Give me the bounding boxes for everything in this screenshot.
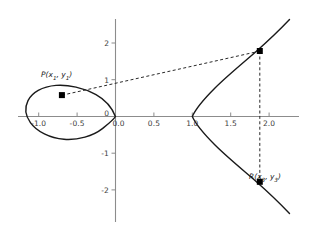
point-label-p-main: P(x [41,70,53,79]
y-tick-label-0: 0 [96,108,109,117]
x-tick-label-0-5: 0.5 [148,119,160,128]
y-tick-label-2: 2 [96,39,109,48]
y-tick-label-neg2: -2 [96,185,109,194]
x-tick-label-neg1: -1.0 [31,119,46,128]
elliptic-curve-figure: -1.0 -0.5 0.0 0.5 1.0 1.5 2.0 2 1 0 -1 -… [0,0,315,235]
x-tick-label-0: 0.0 [112,119,124,128]
point-label-r-end: ) [278,172,281,181]
plot-canvas [0,0,315,235]
point-label-r-main: R(x [249,172,262,181]
x-tick-label-neg0-5: -0.5 [70,119,85,128]
point-label-p-end: ) [69,70,72,79]
x-tick-label-1: 1.0 [186,119,198,128]
y-tick-label-neg1: -1 [96,149,109,158]
point-marker-q [257,48,263,54]
point-label-p: P(x1, y1) [41,70,72,81]
x-tick-label-1-5: 1.5 [225,119,237,128]
point-label-p-mid: , y [56,70,65,79]
x-tick-marks [39,113,269,117]
x-tick-label-2: 2.0 [263,119,275,128]
y-tick-label-1: 1 [96,75,109,84]
point-label-r-mid: , y [265,172,274,181]
point-marker-p [59,92,65,98]
point-label-r: R(x3, y3) [249,172,281,183]
